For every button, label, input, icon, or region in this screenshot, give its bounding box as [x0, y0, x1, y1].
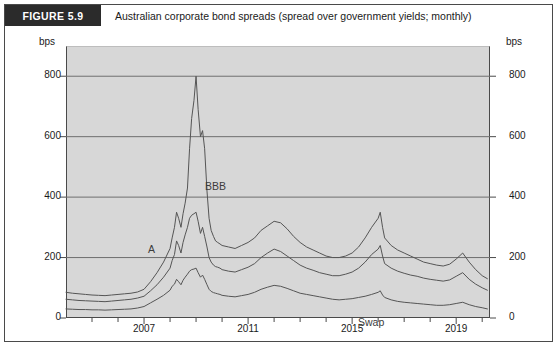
series-line-a [66, 212, 487, 301]
figure-caption: Australian corporate bond spreads (sprea… [115, 5, 472, 26]
figure-number-badge: FIGURE 5.9 [5, 5, 101, 26]
y-tick-label-right: 800 [509, 69, 543, 80]
figure-header: FIGURE 5.9 Australian corporate bond spr… [5, 5, 552, 26]
y-tick-label-left: 400 [31, 190, 61, 201]
y-tick-label-left: 200 [31, 251, 61, 262]
series-line-bbb [66, 76, 487, 295]
y-tick-label-left: 0 [31, 311, 61, 322]
series-line-swap [66, 268, 487, 310]
y-tick-label-left: 800 [31, 69, 61, 80]
y-tick-label-right: 200 [509, 251, 543, 262]
chart-svg [5, 27, 552, 341]
gridlines [66, 76, 490, 257]
series-lines [66, 76, 487, 310]
series-label-bbb: BBB [205, 180, 226, 192]
x-tick-label: 2019 [436, 323, 476, 334]
x-tick-label: 2007 [124, 323, 164, 334]
series-label-swap: Swap [358, 316, 384, 328]
y-tick-label-right: 400 [509, 190, 543, 201]
y-tick-label-right: 600 [509, 130, 543, 141]
figure-page: FIGURE 5.9 Australian corporate bond spr… [0, 0, 557, 346]
chart-container: bps bps 00200200400400600600800800 20072… [5, 27, 552, 341]
y-tick-label-right: 0 [509, 311, 543, 322]
x-tick-label: 2011 [228, 323, 268, 334]
y-tick-label-left: 600 [31, 130, 61, 141]
series-label-a: A [148, 243, 155, 255]
